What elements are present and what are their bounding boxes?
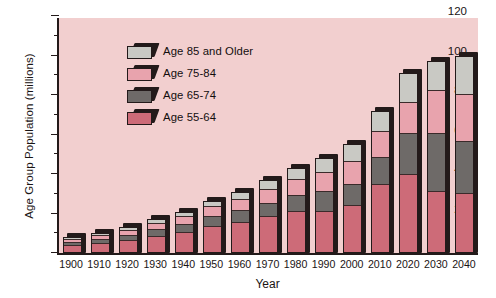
bar-segment bbox=[456, 141, 473, 194]
bar-segment bbox=[456, 193, 473, 252]
bar-stack bbox=[63, 237, 82, 253]
bar-segment bbox=[288, 179, 305, 195]
bar-segment bbox=[456, 94, 473, 141]
bar-segment bbox=[372, 157, 389, 184]
bar-segment bbox=[400, 102, 417, 133]
bar-body bbox=[175, 212, 194, 253]
bar-body bbox=[427, 61, 446, 253]
bar-body bbox=[287, 168, 306, 253]
legend-item: Age 85 and Older bbox=[127, 40, 317, 62]
bar-segment bbox=[260, 203, 277, 216]
bar-body bbox=[203, 201, 222, 253]
y-axis-major-tick bbox=[51, 94, 59, 95]
x-axis-tick-label: 1930 bbox=[143, 258, 167, 270]
bar-body bbox=[147, 219, 166, 253]
bar-segment bbox=[148, 236, 165, 252]
bar-segment bbox=[400, 174, 417, 252]
legend-item: Age 55-64 bbox=[127, 106, 317, 128]
x-axis-tick-label: 2010 bbox=[368, 258, 392, 270]
bar-segment bbox=[64, 245, 81, 252]
bar-segment bbox=[148, 229, 165, 236]
bar-segment bbox=[428, 191, 445, 252]
bar-segment bbox=[204, 216, 221, 226]
y-axis-major-tick bbox=[51, 15, 59, 16]
y-axis-major-tick bbox=[51, 134, 59, 135]
y-axis-title: Age Group Population (millions) bbox=[23, 11, 35, 261]
bar-segment bbox=[428, 133, 445, 192]
x-axis-tick-label: 1950 bbox=[200, 258, 224, 270]
x-axis-tick-label: 1940 bbox=[172, 258, 196, 270]
legend-label: Age 75-84 bbox=[163, 67, 216, 79]
x-axis-tick-label: 1920 bbox=[115, 258, 139, 270]
x-axis-tick-label: 2040 bbox=[452, 258, 476, 270]
bar-body bbox=[91, 233, 110, 253]
bar-segment bbox=[428, 62, 445, 89]
bar-stack bbox=[147, 219, 166, 253]
bar-segment bbox=[372, 184, 389, 252]
plot-area: 020406080100120 Age 85 and OlderAge 75-8… bbox=[57, 18, 478, 255]
bar-stack bbox=[455, 56, 474, 254]
bar-stack bbox=[343, 144, 362, 253]
bar-segment bbox=[176, 232, 193, 252]
x-axis-tick-label: 1980 bbox=[284, 258, 308, 270]
legend-swatch bbox=[127, 87, 157, 104]
bar-segment bbox=[456, 57, 473, 94]
bar-segment bbox=[372, 131, 389, 156]
x-axis-tick-label: 1900 bbox=[59, 258, 83, 270]
bar-segment bbox=[232, 210, 249, 222]
bar-segment bbox=[344, 145, 361, 161]
bar-segment bbox=[428, 90, 445, 133]
legend-swatch bbox=[127, 109, 157, 126]
bar-segment bbox=[400, 133, 417, 174]
legend-swatch-face bbox=[127, 68, 152, 81]
bar-stack bbox=[427, 61, 446, 253]
bar-body bbox=[371, 111, 390, 253]
x-axis-tick-label: 1960 bbox=[228, 258, 252, 270]
x-axis-tick-label: 1910 bbox=[87, 258, 111, 270]
bar-segment bbox=[400, 74, 417, 101]
x-axis-title: Year bbox=[57, 277, 478, 291]
bar-segment bbox=[344, 205, 361, 252]
bar-segment bbox=[316, 211, 333, 252]
bar-body bbox=[315, 158, 334, 253]
x-axis-tick-label: 1970 bbox=[256, 258, 280, 270]
bar-segment bbox=[92, 243, 109, 252]
bar-segment bbox=[204, 206, 221, 215]
bar-stack bbox=[175, 212, 194, 253]
legend-swatch-face bbox=[127, 90, 152, 103]
bar-segment bbox=[232, 222, 249, 252]
bar-stack bbox=[203, 201, 222, 253]
legend-item: Age 75-84 bbox=[127, 62, 317, 84]
bar-segment bbox=[288, 211, 305, 252]
y-axis-major-tick bbox=[51, 252, 59, 253]
bar-segment bbox=[316, 191, 333, 211]
y-axis-tick-label: 120 bbox=[448, 5, 467, 17]
bar-body bbox=[259, 180, 278, 253]
bar-segment bbox=[288, 169, 305, 179]
bar-segment bbox=[316, 159, 333, 172]
bar-segment bbox=[204, 226, 221, 252]
bar-segment bbox=[316, 172, 333, 191]
x-axis-tick-label: 1990 bbox=[312, 258, 336, 270]
legend-swatch bbox=[127, 65, 157, 82]
x-axis-tick-label: 2020 bbox=[396, 258, 420, 270]
bar-stack bbox=[119, 227, 138, 253]
bar-segment bbox=[232, 199, 249, 210]
bar-segment bbox=[344, 161, 361, 184]
bar-body bbox=[119, 227, 138, 253]
y-axis-major-tick bbox=[51, 213, 59, 214]
y-axis-major-tick bbox=[51, 173, 59, 174]
legend-label: Age 85 and Older bbox=[163, 45, 253, 57]
bar-body bbox=[399, 73, 418, 253]
bar-stack bbox=[399, 73, 418, 253]
bar-segment bbox=[120, 240, 137, 252]
bar-stack bbox=[91, 233, 110, 253]
x-axis-tick-label: 2030 bbox=[424, 258, 448, 270]
bar-segment bbox=[344, 184, 361, 205]
bar-stack bbox=[371, 111, 390, 253]
bar-segment bbox=[176, 224, 193, 232]
bar-body bbox=[63, 237, 82, 253]
x-axis-tick-labels: 1900191019201930194019501960197019801990… bbox=[57, 258, 478, 274]
chart-legend: Age 85 and OlderAge 75-84Age 65-74Age 55… bbox=[127, 40, 317, 128]
bar-stack bbox=[231, 192, 250, 253]
